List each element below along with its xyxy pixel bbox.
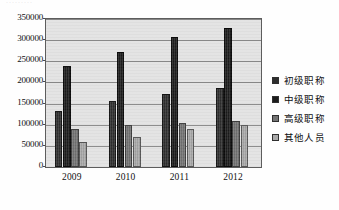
bar bbox=[79, 142, 87, 167]
bar bbox=[187, 129, 195, 167]
y-axis: 0500001000001500002000002500003000003500… bbox=[0, 0, 43, 210]
x-axis: 2009201020112012 bbox=[45, 171, 262, 187]
y-axis-tick-label: 100000 bbox=[1, 119, 43, 128]
bar-group bbox=[207, 19, 261, 167]
x-axis-tick-label: 2009 bbox=[45, 171, 99, 183]
chart-page: ········· 050000100000150000200000250000… bbox=[0, 0, 339, 210]
x-axis-tick-label: 2012 bbox=[206, 171, 260, 183]
x-axis-tick-label: 2010 bbox=[99, 171, 153, 183]
legend-item: 中级职称 bbox=[272, 91, 338, 107]
bar-group bbox=[154, 19, 208, 167]
bar-group bbox=[46, 19, 100, 167]
bar bbox=[71, 129, 79, 167]
legend-swatch-icon bbox=[272, 134, 279, 141]
legend-item-label: 高级职称 bbox=[284, 113, 325, 124]
legend-item-label: 其他人员 bbox=[284, 132, 325, 143]
bar bbox=[232, 121, 240, 167]
bar-chart: 0500001000001500002000002500003000003500… bbox=[0, 0, 339, 210]
bar bbox=[125, 125, 133, 167]
bar bbox=[63, 66, 71, 167]
y-axis-tick-label: 50000 bbox=[1, 140, 43, 149]
bar bbox=[241, 125, 249, 167]
y-axis-tick-label: 250000 bbox=[1, 55, 43, 64]
bar bbox=[117, 52, 125, 167]
plot-area bbox=[45, 18, 262, 168]
chart-legend: 初级职称中级职称高级职称其他人员 bbox=[272, 72, 338, 148]
bar bbox=[162, 94, 170, 167]
bar bbox=[171, 37, 179, 167]
bar bbox=[224, 28, 232, 167]
bar bbox=[216, 88, 224, 167]
legend-swatch-icon bbox=[272, 77, 279, 84]
legend-swatch-icon bbox=[272, 115, 279, 122]
bar bbox=[109, 101, 117, 167]
legend-swatch-icon bbox=[272, 96, 279, 103]
y-axis-tick-label: 300000 bbox=[1, 34, 43, 43]
legend-item: 高级职称 bbox=[272, 110, 338, 126]
bar bbox=[179, 123, 187, 167]
legend-item: 其他人员 bbox=[272, 129, 338, 145]
legend-item-label: 中级职称 bbox=[284, 94, 325, 105]
legend-item: 初级职称 bbox=[272, 72, 338, 88]
bar bbox=[133, 137, 141, 167]
y-axis-tick-label: 200000 bbox=[1, 76, 43, 85]
bar bbox=[55, 111, 63, 167]
bar-group bbox=[100, 19, 154, 167]
y-axis-tick-label: 0 bbox=[1, 161, 43, 170]
y-axis-tick-label: 150000 bbox=[1, 98, 43, 107]
y-axis-tick-label: 350000 bbox=[1, 13, 43, 22]
legend-item-label: 初级职称 bbox=[284, 75, 325, 86]
x-axis-tick-label: 2011 bbox=[153, 171, 207, 183]
